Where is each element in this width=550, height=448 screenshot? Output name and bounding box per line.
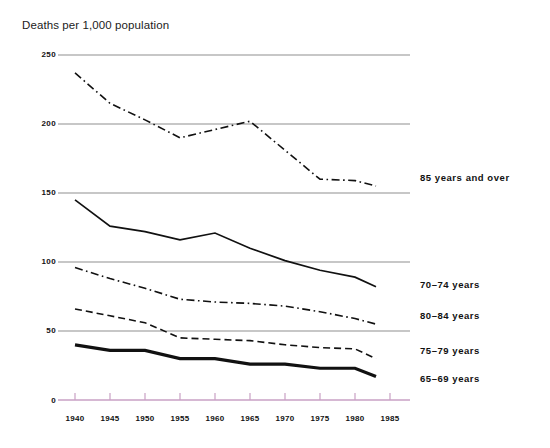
series-line-65-69-years (75, 345, 376, 377)
series-line-80-84-years (75, 268, 376, 325)
x-axis-ticks (75, 393, 390, 400)
chart-figure: Deaths per 1,000 population 250 200 150 … (0, 0, 550, 448)
plot-canvas (0, 0, 550, 448)
gridlines (58, 55, 410, 331)
series-line-70-74-years (75, 200, 376, 287)
series-line-85-years-and-over (75, 73, 376, 186)
